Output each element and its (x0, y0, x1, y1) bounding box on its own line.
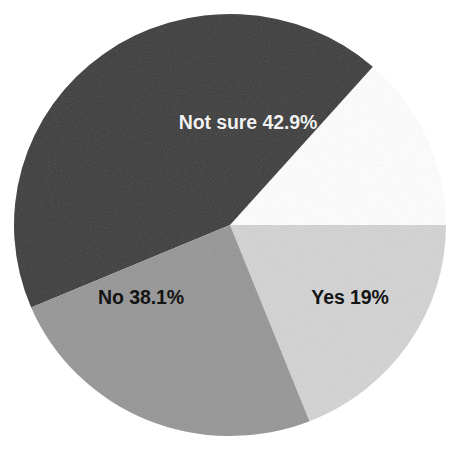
pie-chart-svg (0, 0, 467, 452)
print-grain-overlay (0, 0, 467, 452)
pie-chart: Not sure 42.9% No 38.1% Yes 19% (0, 0, 467, 452)
